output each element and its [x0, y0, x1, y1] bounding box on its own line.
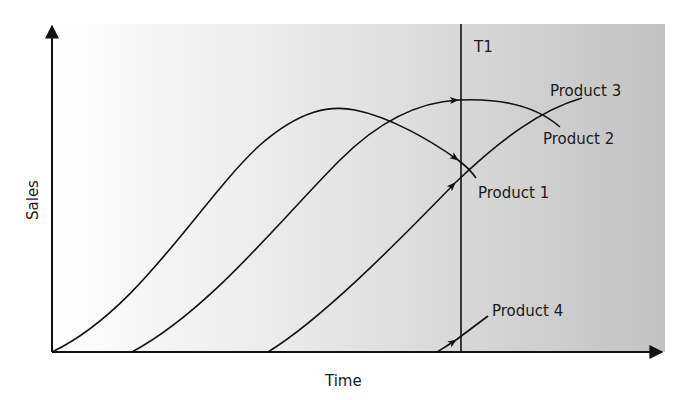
product-2-label: Product 2 [543, 130, 614, 148]
product-3-label: Product 3 [550, 82, 621, 100]
product-life-cycle-diagram: T1 Product 3 Product 2 Product 1 Product… [0, 0, 684, 400]
t1-label: T1 [473, 38, 493, 56]
x-axis-label: Time [324, 372, 362, 390]
y-axis-label: Sales [24, 180, 42, 220]
product-1-label: Product 1 [478, 184, 549, 202]
product-4-label: Product 4 [492, 302, 563, 320]
plot-background [52, 24, 665, 352]
